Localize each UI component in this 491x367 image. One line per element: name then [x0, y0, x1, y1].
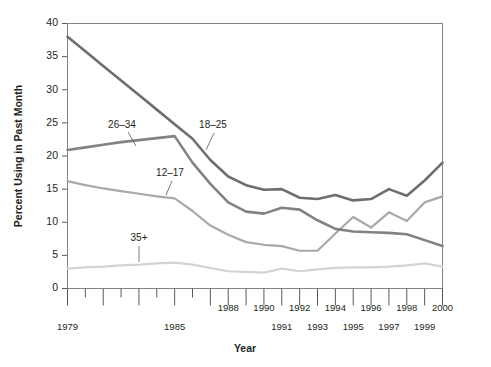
y-tick-label: 0 — [52, 281, 58, 293]
x-tick-label: 1999 — [414, 321, 435, 332]
x-tick-label: 1995 — [343, 321, 364, 332]
x-tick-label: 1992 — [289, 302, 310, 313]
figure-container: 0510152025303540 19881990199219941996199… — [0, 0, 491, 367]
y-tick-label: 40 — [46, 16, 58, 28]
y-tick-label: 25 — [46, 116, 58, 128]
x-tick-label: 1994 — [325, 302, 346, 313]
x-tick-label: 1979 — [57, 321, 78, 332]
x-tick-label: 1991 — [271, 321, 292, 332]
y-tick-label: 30 — [46, 83, 58, 95]
y-tick-label: 10 — [46, 215, 58, 227]
y-tick-label: 20 — [46, 149, 58, 161]
label-12-17: 12–17 — [156, 167, 184, 178]
label-26-34: 26–34 — [108, 119, 136, 130]
y-tick-label: 35 — [46, 49, 58, 61]
x-tick-label: 1996 — [361, 302, 382, 313]
x-tick-label: 2000 — [432, 302, 453, 313]
x-tick-label: 1990 — [253, 302, 274, 313]
x-axis-title: Year — [234, 342, 256, 354]
x-tick-label: 1997 — [378, 321, 399, 332]
y-tick-label: 15 — [46, 182, 58, 194]
x-tick-label: 1988 — [218, 302, 239, 313]
label-35+: 35+ — [131, 232, 148, 243]
y-axis-title: Percent Using in Past Month — [12, 85, 24, 227]
x-tick-label: 1985 — [164, 321, 185, 332]
y-tick-label: 5 — [52, 248, 58, 260]
x-tick-label: 1993 — [307, 321, 328, 332]
label-18-25: 18–25 — [199, 119, 227, 130]
chart-svg: 0510152025303540 19881990199219941996199… — [0, 0, 491, 367]
x-tick-label: 1998 — [396, 302, 417, 313]
